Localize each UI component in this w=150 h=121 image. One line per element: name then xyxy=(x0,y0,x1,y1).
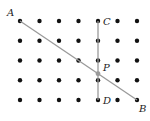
grid-dot xyxy=(135,78,139,82)
label-c: C xyxy=(103,16,111,27)
grid-dot xyxy=(135,39,139,43)
grid-dot xyxy=(115,19,119,23)
label-a: A xyxy=(6,7,14,18)
grid-dot xyxy=(57,39,61,43)
grid-dot xyxy=(57,19,61,23)
label-p: P xyxy=(102,62,110,73)
grid-dot xyxy=(37,98,41,102)
grid-dot xyxy=(115,98,119,102)
grid-dot xyxy=(76,98,80,102)
label-d: D xyxy=(102,95,111,106)
grid-dot xyxy=(135,19,139,23)
grid-dot xyxy=(18,78,22,82)
grid-dot xyxy=(37,58,41,62)
grid-dot xyxy=(18,39,22,43)
grid-dot xyxy=(57,98,61,102)
grid-dot xyxy=(115,58,119,62)
grid-dot xyxy=(115,39,119,43)
grid-dot xyxy=(37,78,41,82)
grid-dot xyxy=(37,39,41,43)
intersection-point-p xyxy=(96,71,101,76)
grid-dot xyxy=(115,78,119,82)
grid-diagram: A B C D P xyxy=(0,0,150,121)
grid-dot xyxy=(76,39,80,43)
grid-dot xyxy=(57,78,61,82)
grid-dot xyxy=(57,58,61,62)
grid-dot xyxy=(76,78,80,82)
label-b: B xyxy=(138,103,146,114)
grid-dot xyxy=(37,19,41,23)
grid-dot xyxy=(18,58,22,62)
grid-dot xyxy=(76,19,80,23)
grid-dot xyxy=(18,98,22,102)
grid-dot xyxy=(135,58,139,62)
